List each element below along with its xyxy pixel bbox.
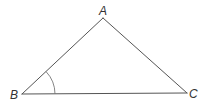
side-ac	[103, 18, 187, 93]
vertex-label-c: C	[189, 87, 198, 101]
vertex-label-a: A	[98, 4, 107, 18]
side-ab	[22, 18, 103, 94]
triangle-diagram: A B C	[0, 0, 207, 107]
angle-b-arc	[46, 72, 55, 95]
side-bc	[22, 93, 187, 94]
triangle	[22, 18, 187, 94]
vertex-label-b: B	[10, 88, 18, 102]
